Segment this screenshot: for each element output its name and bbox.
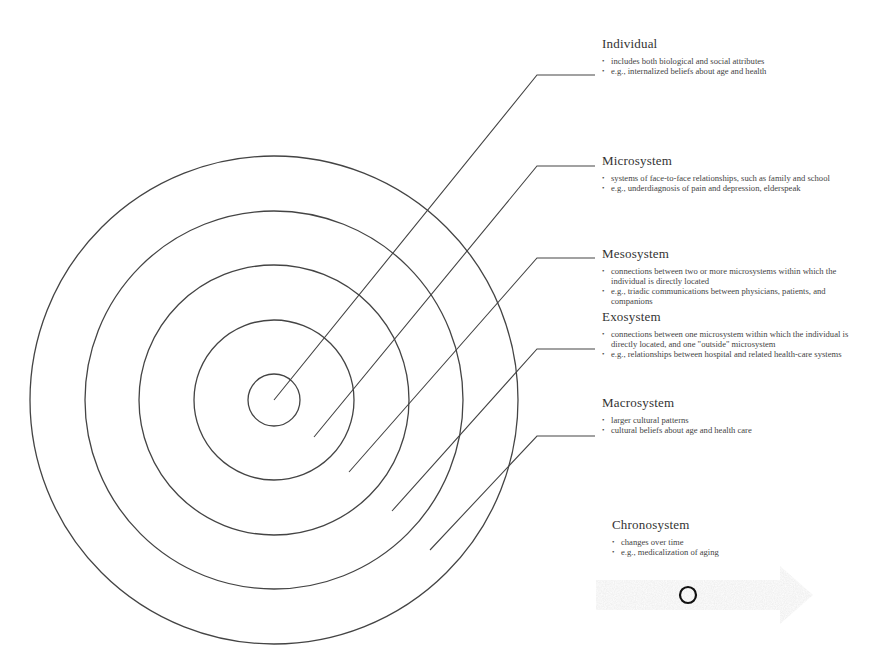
macrosystem-description: Macrosystem larger cultural patterns cul…: [602, 395, 852, 435]
exosystem-description: Exosystem connections between one micros…: [602, 309, 852, 359]
mesosystem-title: Mesosystem: [602, 246, 852, 262]
exosystem-item: connections between one microsystem with…: [602, 329, 852, 349]
microsystem-description: Microsystem systems of face-to-face rela…: [602, 153, 852, 193]
macrosystem-item: larger cultural patterns: [602, 415, 852, 425]
chronosystem-arrow: [596, 566, 813, 624]
individual-leader-line: [274, 75, 595, 400]
chronosystem-item: changes over time: [612, 537, 812, 547]
chronosystem-title: Chronosystem: [612, 517, 812, 533]
individual-item: includes both biological and social attr…: [602, 56, 852, 66]
exosystem-title: Exosystem: [602, 309, 852, 325]
microsystem-item: e.g., underdiagnosis of pain and depress…: [602, 183, 852, 193]
macrosystem-title: Macrosystem: [602, 395, 852, 411]
mesosystem-description: Mesosystem connections between two or mo…: [602, 246, 852, 306]
chronosystem-item: e.g., medicalization of aging: [612, 547, 812, 557]
exosystem-leader-line: [392, 349, 595, 511]
microsystem-title: Microsystem: [602, 153, 852, 169]
microsystem-item: systems of face-to-face relationships, s…: [602, 173, 852, 183]
microsystem-leader-line: [314, 166, 595, 437]
individual-title: Individual: [602, 36, 852, 52]
exosystem-item: e.g., relationships between hospital and…: [602, 349, 852, 359]
individual-description: Individual includes both biological and …: [602, 36, 852, 76]
individual-item: e.g., internalized beliefs about age and…: [602, 66, 852, 76]
chronosystem-description: Chronosystem changes over time e.g., med…: [612, 517, 812, 557]
mesosystem-leader-line: [349, 258, 595, 472]
macrosystem-item: cultural beliefs about age and health ca…: [602, 425, 852, 435]
mesosystem-item: e.g., triadic communications between phy…: [602, 286, 852, 306]
mesosystem-item: connections between two or more microsys…: [602, 266, 852, 286]
